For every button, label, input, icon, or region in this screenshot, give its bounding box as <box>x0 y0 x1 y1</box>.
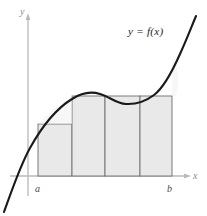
upper-limit-label: b <box>167 183 172 194</box>
rectangle-1 <box>38 124 72 176</box>
rectangle-2 <box>72 96 105 176</box>
y-axis <box>26 13 31 196</box>
rectangle-3 <box>105 96 140 176</box>
y-axis-arrow <box>26 13 31 20</box>
lower-limit-label: a <box>35 183 40 194</box>
x-axis-label: x <box>193 170 197 181</box>
rectangle-4 <box>140 96 172 176</box>
plot-area <box>0 0 207 216</box>
function-label: y = f(x) <box>128 25 163 37</box>
y-axis-label: y <box>20 6 24 17</box>
x-axis-arrow <box>184 174 191 179</box>
figure-riemann-sum: y x a b y = f(x) <box>0 0 207 216</box>
